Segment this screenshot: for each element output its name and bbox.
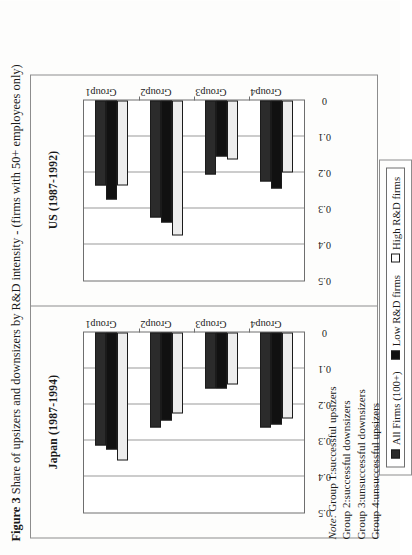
group-band xyxy=(194,332,249,512)
legend-entry: Low R&D firms xyxy=(390,274,402,358)
bar-low xyxy=(216,100,227,156)
category-label: Group4 xyxy=(250,319,281,330)
group-band xyxy=(84,332,139,512)
chart-panel-us: US (1987-1992) 0.50.40.30.20.10Group1Gro… xyxy=(31,74,377,305)
category-label: Group2 xyxy=(140,87,171,98)
group-band xyxy=(249,100,304,280)
note-line: Note: Group 1:successful upsizers xyxy=(325,386,339,539)
figure-notes: Note: Group 1:successful upsizersGroup 2… xyxy=(325,386,382,539)
x-tick-label: 0.2 xyxy=(308,168,342,179)
figure-caption-text: Share of upsizers and downsizers by R&D … xyxy=(9,64,23,494)
legend-label: All Firms (100+) xyxy=(390,371,402,445)
category-label: Group1 xyxy=(85,87,116,98)
x-tick-label: 0.3 xyxy=(308,204,342,215)
legend-entry: High R&D firms xyxy=(390,176,402,262)
x-tick-label: 0.1 xyxy=(308,364,342,375)
x-tick-label: 0.4 xyxy=(308,240,342,251)
bar-low xyxy=(216,332,227,388)
group-band xyxy=(139,100,194,280)
bar-high xyxy=(117,332,128,460)
category-label: Group1 xyxy=(85,319,116,330)
bar-all xyxy=(150,332,161,427)
figure-caption: Figure 3 Share of upsizers and downsizer… xyxy=(9,11,23,541)
note-keyword: Note: xyxy=(326,514,338,539)
bar-all xyxy=(260,332,271,427)
category-label: Group3 xyxy=(195,319,226,330)
legend-swatch-low xyxy=(391,350,400,359)
bar-high xyxy=(172,332,183,413)
plot-area-japan xyxy=(83,331,305,513)
group-band xyxy=(194,100,249,280)
x-tick-label: 0 xyxy=(308,96,342,107)
bar-low xyxy=(106,100,117,199)
category-label: Group3 xyxy=(195,87,226,98)
bar-all xyxy=(205,100,216,174)
bar-low xyxy=(161,100,172,222)
category-label: Group2 xyxy=(140,319,171,330)
bar-high xyxy=(282,332,293,418)
bar-high xyxy=(117,100,128,185)
bar-all xyxy=(95,100,106,185)
bar-low xyxy=(106,332,117,449)
group-band xyxy=(249,332,304,512)
bar-high xyxy=(172,100,183,235)
bar-all xyxy=(150,100,161,217)
note-line: Group 2:successful downsizers xyxy=(339,386,353,539)
plot-area-us xyxy=(83,99,305,281)
chart-title-us: US (1987-1992) xyxy=(47,74,60,305)
note-line: Group 4:unsuccessful upsizers xyxy=(368,386,382,539)
group-band xyxy=(84,100,139,280)
bar-all xyxy=(260,100,271,181)
figure-label: Figure 3 xyxy=(9,497,23,541)
group-band xyxy=(139,332,194,512)
bar-high xyxy=(227,332,238,384)
legend-label: Low R&D firms xyxy=(390,274,402,345)
chart-title-japan: Japan (1987-1994) xyxy=(47,306,60,537)
x-tick-label: 0.5 xyxy=(308,276,342,287)
bar-low xyxy=(271,332,282,424)
bar-low xyxy=(271,100,282,188)
bar-high xyxy=(227,100,238,159)
note-line: Group 3:unsuccessful downsizers xyxy=(354,386,368,539)
chart-legend: All Firms (100+)Low R&D firmsHigh R&D fi… xyxy=(386,167,405,467)
bar-low xyxy=(161,332,172,420)
legend-label: High R&D firms xyxy=(390,176,402,249)
legend-swatch-high xyxy=(391,253,400,262)
bar-high xyxy=(282,100,293,172)
bar-all xyxy=(205,332,216,388)
bar-all xyxy=(95,332,106,445)
x-tick-label: 0 xyxy=(308,328,342,339)
category-label: Group4 xyxy=(250,87,281,98)
legend-entry: All Firms (100+) xyxy=(390,371,402,458)
x-tick-label: 0.1 xyxy=(308,132,342,143)
legend-swatch-all xyxy=(391,449,400,458)
